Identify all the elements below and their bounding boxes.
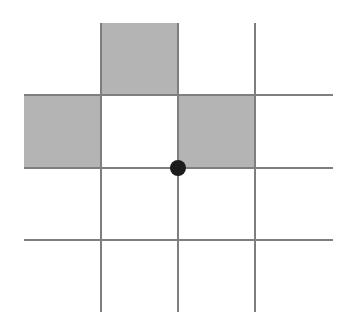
grid-cell-r2c1[interactable] [24,95,101,168]
grid-cell-r3c2[interactable] [101,168,178,240]
grid-cell-r3c4[interactable] [255,168,333,240]
grid-canvas [24,23,333,312]
grid-figure [24,23,333,312]
grid-cell-r2c2[interactable] [101,95,178,168]
grid-cell-r3c1[interactable] [24,168,101,240]
grid-cell-r1c2[interactable] [101,23,178,95]
grid-cell-r1c1[interactable] [24,23,101,95]
grid-cell-r4c1[interactable] [24,240,101,312]
center-dot[interactable] [170,160,186,176]
grid-cell-r2c3[interactable] [178,95,255,168]
grid-cell-r4c3[interactable] [178,240,255,312]
grid-cell-r4c4[interactable] [255,240,333,312]
grid-cell-r2c4[interactable] [255,95,333,168]
grid-cell-r1c3[interactable] [178,23,255,95]
marker-layer [170,160,186,176]
grid-cell-r3c3[interactable] [178,168,255,240]
grid-cell-r1c4[interactable] [255,23,333,95]
grid-cell-r4c2[interactable] [101,240,178,312]
